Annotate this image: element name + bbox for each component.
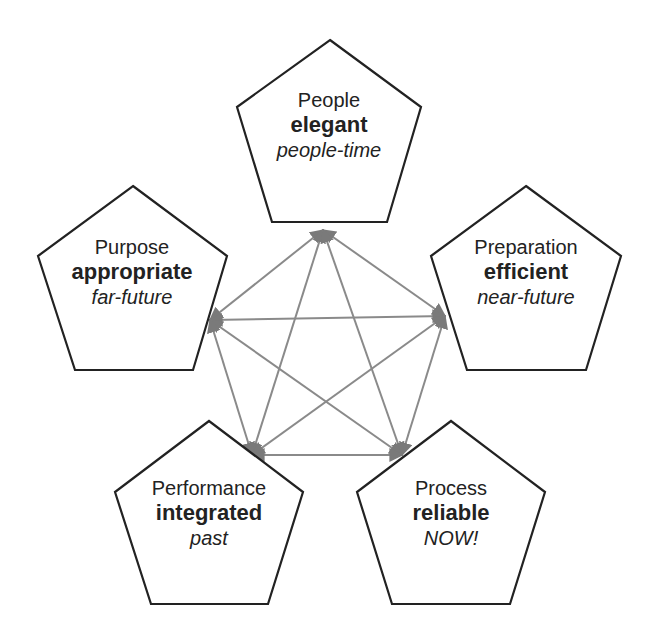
node-preparation: Preparation efficient near-future bbox=[426, 235, 626, 309]
node-process: Process reliable NOW! bbox=[351, 476, 551, 550]
arrow-preparation-performance bbox=[252, 316, 445, 455]
arrow-people-process bbox=[323, 230, 402, 455]
node-name: Performance bbox=[109, 476, 309, 500]
node-quality: reliable bbox=[351, 500, 551, 526]
node-time: people-time bbox=[229, 138, 429, 162]
node-name: Preparation bbox=[426, 235, 626, 259]
arrow-purpose-process bbox=[210, 320, 402, 455]
arrow-people-performance bbox=[252, 230, 323, 455]
node-time: past bbox=[109, 526, 309, 550]
connection-lines bbox=[210, 230, 445, 455]
node-time: far-future bbox=[32, 285, 232, 309]
node-quality: integrated bbox=[109, 500, 309, 526]
node-quality: appropriate bbox=[32, 259, 232, 285]
node-time: near-future bbox=[426, 285, 626, 309]
node-quality: efficient bbox=[426, 259, 626, 285]
node-people: People elegant people-time bbox=[229, 88, 429, 162]
node-name: Purpose bbox=[32, 235, 232, 259]
node-performance: Performance integrated past bbox=[109, 476, 309, 550]
node-purpose: Purpose appropriate far-future bbox=[32, 235, 232, 309]
node-name: People bbox=[229, 88, 429, 112]
node-name: Process bbox=[351, 476, 551, 500]
pentagram-diagram: People elegant people-time Preparation e… bbox=[0, 0, 649, 642]
node-time: NOW! bbox=[351, 526, 551, 550]
node-quality: elegant bbox=[229, 112, 429, 138]
arrow-purpose-preparation bbox=[210, 316, 445, 320]
